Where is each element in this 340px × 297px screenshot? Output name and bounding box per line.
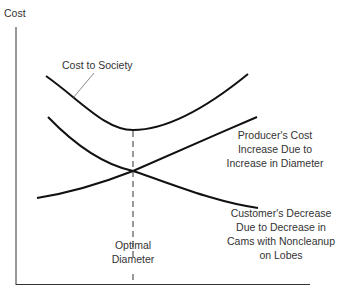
producer-cost-label-line: Increase in Diameter xyxy=(220,156,330,170)
producer-cost-label-line: Producer's Cost xyxy=(220,128,330,142)
cost-to-society-leader xyxy=(73,73,94,98)
y-axis-label: Cost xyxy=(4,6,26,20)
producer-cost-label-line: Increase Due to xyxy=(220,142,330,156)
optimal-label-line: Optimal xyxy=(103,238,163,252)
cost-to-society-label: Cost to Society xyxy=(62,58,133,72)
cost-to-society-curve xyxy=(46,74,248,130)
optimal-diameter-label: Optimal Diameter xyxy=(103,238,163,266)
optimal-label-line: Diameter xyxy=(103,252,163,266)
customer-decrease-label-line: Due to Decrease in xyxy=(226,220,336,234)
customer-decrease-label-line: on Lobes xyxy=(226,248,336,262)
customer-decrease-label-line: Cams with Noncleanup xyxy=(226,234,336,248)
customer-decrease-label: Customer's Decrease Due to Decrease in C… xyxy=(226,206,336,262)
producer-cost-label: Producer's Cost Increase Due to Increase… xyxy=(220,128,330,170)
customer-decrease-label-line: Customer's Decrease xyxy=(226,206,336,220)
